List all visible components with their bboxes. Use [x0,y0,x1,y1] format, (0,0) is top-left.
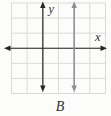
coordinate-plane: x y B [0,0,111,116]
y-axis-label: y [47,2,55,16]
graph-figure: x y B [0,0,111,116]
x-axis-label: x [94,30,101,44]
figure-label: B [56,99,65,114]
